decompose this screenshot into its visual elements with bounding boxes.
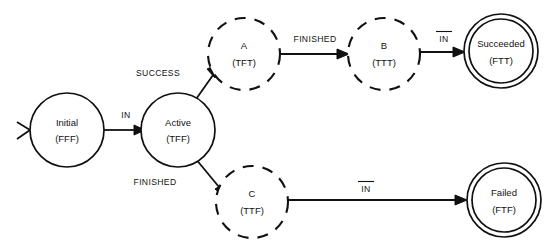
- start-arrow-icon: [17, 122, 30, 139]
- edge-c-failed: IN: [281, 182, 467, 213]
- state-node-failed[interactable]: Failed (FTF): [467, 163, 541, 237]
- state-circle-a[interactable]: [208, 18, 280, 90]
- state-circle-active[interactable]: [141, 93, 215, 167]
- edge-label-c-failed: IN: [361, 184, 370, 194]
- state-code-a: (TFT): [232, 57, 256, 68]
- state-circle-initial[interactable]: [30, 93, 104, 167]
- edge-initial-active: IN: [104, 110, 145, 135]
- edge-label-initial-active: IN: [121, 110, 130, 120]
- state-circle-failed-inner: [472, 168, 536, 232]
- state-code-b: (TTT): [372, 57, 396, 68]
- state-circle-c[interactable]: [216, 166, 288, 238]
- state-node-active[interactable]: Active (TFF): [141, 93, 215, 167]
- edge-b-succeeded: IN: [414, 32, 465, 65]
- state-node-b[interactable]: B (TTT): [348, 18, 420, 90]
- state-label-b: B: [381, 40, 387, 51]
- state-label-initial: Initial: [56, 117, 78, 128]
- state-code-active: (TFF): [166, 133, 190, 144]
- state-code-failed: (FTF): [492, 204, 516, 215]
- edge-label-a-b: FINISHED: [294, 34, 337, 44]
- state-diagram-canvas: IN SUCCESS FINISHED IN FINISHED: [0, 0, 556, 243]
- state-label-a: A: [241, 40, 248, 51]
- edge-label-active-c: FINISHED: [134, 177, 177, 187]
- state-label-succeeded: Succeeded: [477, 38, 525, 49]
- state-label-failed: Failed: [491, 187, 517, 198]
- state-label-c: C: [249, 188, 256, 199]
- state-node-succeeded[interactable]: Succeeded (FTT): [464, 14, 538, 88]
- state-diagram: IN SUCCESS FINISHED IN FINISHED: [0, 0, 556, 243]
- state-circle-succeeded-inner: [469, 19, 533, 83]
- edge-label-active-a: SUCCESS: [136, 68, 180, 78]
- edge-label-b-succeeded: IN: [439, 34, 448, 44]
- state-label-active: Active: [165, 117, 191, 128]
- edge-start-initial: [17, 122, 31, 139]
- state-code-c: (TTF): [240, 205, 264, 216]
- state-code-initial: (FFF): [55, 133, 79, 144]
- state-node-a[interactable]: A (TFT): [208, 18, 280, 90]
- state-node-c[interactable]: C (TTF): [216, 166, 288, 238]
- edge-c-failed-line: [281, 200, 464, 212]
- arrowhead-icon: [455, 195, 467, 205]
- state-circle-b[interactable]: [348, 18, 420, 90]
- state-code-succeeded: (FTT): [489, 55, 513, 66]
- state-node-initial[interactable]: Initial (FFF): [30, 93, 104, 167]
